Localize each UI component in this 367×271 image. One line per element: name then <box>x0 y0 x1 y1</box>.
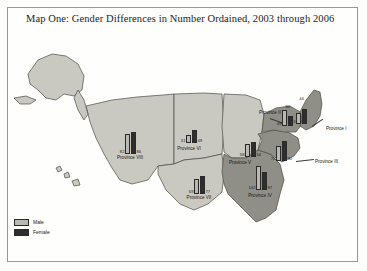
alaska-aleutians <box>14 96 36 104</box>
legend-label-male: Male <box>33 220 44 225</box>
value-male-province-v: 58 <box>240 153 245 157</box>
value-female-province-viii: 86 <box>137 150 142 154</box>
bar-pair-province-vii: 6977 <box>194 176 205 194</box>
value-male-province-vii: 69 <box>189 190 194 194</box>
bar-male-province-ii <box>282 110 287 126</box>
bar-male-province-vi <box>186 135 191 143</box>
value-male-province-viii: 82 <box>120 150 125 154</box>
bar-pair-province-iii: 7090 <box>276 139 287 161</box>
bar-pair-province-vi: 3149 <box>186 130 197 143</box>
bar-pair-province-iv: 14297 <box>256 166 267 190</box>
bar-male-province-vii <box>194 179 199 194</box>
value-female-province-iv: 97 <box>268 186 273 190</box>
value-male-province-iv: 142 <box>249 186 256 190</box>
region-province-v <box>222 94 264 158</box>
legend-label-female: Female <box>33 230 50 235</box>
map-figure: Map One: Gender Differences in Number Or… <box>0 0 367 271</box>
bar-female-province-i <box>302 109 307 124</box>
value-male-province-iii: 70 <box>271 157 276 161</box>
map-canvas: 3344Province I4830Province II7090Provinc… <box>8 34 353 249</box>
value-female-province-v: 54 <box>257 153 262 157</box>
legend: Male Female <box>14 219 50 239</box>
bar-pair-province-v: 5854 <box>245 142 256 157</box>
bar-female-province-vii <box>200 176 205 194</box>
bar-male-province-iv <box>256 166 261 190</box>
label-province-vii: Province VII <box>187 196 212 201</box>
alaska-panhandle <box>74 90 88 120</box>
bar-female-province-vi <box>192 130 197 143</box>
label-province-v: Province V <box>229 161 251 166</box>
label-province-iv: Province IV <box>248 194 272 199</box>
label-province-iii: Province III <box>315 160 338 165</box>
value-male-province-vi: 31 <box>181 139 186 143</box>
label-province-i: Province I <box>326 127 346 132</box>
value-female-province-iii: 90 <box>288 157 293 161</box>
legend-swatch-female <box>14 229 29 236</box>
bar-female-province-viii <box>131 132 136 154</box>
bar-female-province-v <box>251 142 256 157</box>
bar-male-province-v <box>245 144 250 157</box>
label-province-viii: Province VIII <box>117 156 143 161</box>
region-alaska <box>28 54 84 100</box>
bar-pair-province-ii: 4830 <box>282 110 293 126</box>
bar-female-province-iv <box>262 172 267 190</box>
label-province-vi: Province VI <box>177 147 201 152</box>
bar-female-province-ii <box>288 116 293 126</box>
label-province-ii: Province II <box>259 111 281 116</box>
bar-male-province-iii <box>276 146 281 161</box>
region-province-vi <box>174 93 224 164</box>
bar-male-province-viii <box>125 134 130 154</box>
legend-item-female: Female <box>14 229 50 236</box>
value-female-province-vii: 77 <box>206 190 211 194</box>
bar-male-province-i <box>296 113 301 124</box>
page-title: Map One: Gender Differences in Number Or… <box>26 13 334 24</box>
value-female-province-vi: 49 <box>198 139 203 143</box>
value-male-province-ii: 48 <box>277 122 282 126</box>
value-female-province-ii: 30 <box>285 105 290 109</box>
legend-swatch-male <box>14 219 29 226</box>
bar-female-province-iii <box>282 141 287 161</box>
bar-pair-province-viii: 8286 <box>125 132 136 154</box>
bar-pair-province-i: 3344 <box>296 102 307 124</box>
region-hawaii <box>56 166 80 186</box>
legend-item-male: Male <box>14 219 50 226</box>
value-female-province-i: 44 <box>299 97 304 101</box>
